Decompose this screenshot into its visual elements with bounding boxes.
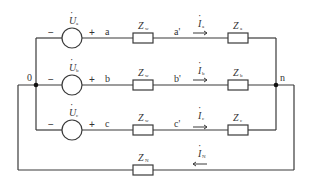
zw-b-sub: w: [145, 73, 149, 78]
circuit-diagram: 0 n − + · U a a − + · U b b − + · U c c …: [0, 0, 312, 189]
terminal-c-prime-label: c': [174, 118, 180, 129]
current-c-sub: c: [202, 116, 205, 121]
source-c-plus: +: [89, 119, 95, 130]
terminal-c-label: c: [105, 118, 110, 129]
wires: [18, 38, 294, 170]
zw-b-symbol: Z: [138, 67, 144, 78]
zb-sub: b: [240, 73, 243, 78]
node-n-dot: [274, 83, 279, 88]
neutral-impedance: Z N: [133, 152, 153, 175]
resistor-icon: [133, 125, 153, 135]
current-a-sub: a: [202, 24, 205, 29]
zn-sub: N: [145, 158, 149, 163]
node-0-label: 0: [27, 72, 32, 83]
zn-symbol: Z: [138, 152, 144, 163]
current-n: · I N: [193, 140, 207, 166]
load-impedance-c: Z c: [228, 112, 248, 135]
current-n-sub: N: [202, 154, 206, 159]
terminal-a-label: a: [105, 26, 110, 37]
zw-a-sub: w: [145, 26, 149, 31]
resistor-icon: [228, 80, 248, 90]
terminal-a-prime-label: a': [174, 26, 180, 37]
voltage-source-b: − + · U b b: [48, 54, 110, 95]
current-a: · I a: [193, 10, 207, 35]
line-impedance-b: Z w: [133, 67, 153, 90]
line-impedance-c: Z w: [133, 112, 153, 135]
current-b-sub: b: [202, 71, 205, 76]
resistor-icon: [133, 165, 153, 175]
current-c: · I c: [193, 102, 207, 129]
terminal-b-label: b: [105, 73, 110, 84]
zb-symbol: Z: [233, 67, 239, 78]
line-impedance-a: Z w: [133, 20, 153, 43]
current-b: · I b: [193, 57, 207, 82]
arrow-right-icon: [193, 31, 207, 35]
zw-c-symbol: Z: [138, 112, 144, 123]
source-a-minus: −: [48, 27, 54, 38]
voltage-source-c: − + · U c c: [48, 99, 110, 140]
source-b-sub: b: [76, 68, 79, 73]
arrow-right-icon: [193, 78, 207, 82]
resistor-icon: [228, 33, 248, 43]
source-a-plus: +: [89, 27, 95, 38]
source-circle-icon: [62, 28, 82, 48]
node-0-dot: [34, 83, 39, 88]
zw-c-sub: w: [145, 118, 149, 123]
zc-sub: c: [240, 118, 243, 123]
arrow-right-icon: [193, 125, 207, 129]
source-circle-icon: [62, 75, 82, 95]
node-n-label: n: [280, 72, 285, 83]
zw-a-symbol: Z: [138, 20, 144, 31]
arrow-left-icon: [193, 162, 207, 166]
zc-symbol: Z: [233, 112, 239, 123]
source-c-minus: −: [48, 119, 54, 130]
resistor-icon: [133, 33, 153, 43]
resistor-icon: [228, 125, 248, 135]
source-a-sub: a: [76, 21, 79, 26]
source-b-minus: −: [48, 74, 54, 85]
load-impedance-b: Z b: [228, 67, 248, 90]
load-impedance-a: Z a: [228, 20, 248, 43]
resistor-icon: [133, 80, 153, 90]
source-c-sub: c: [76, 113, 79, 118]
source-b-plus: +: [89, 74, 95, 85]
source-circle-icon: [62, 120, 82, 140]
terminal-b-prime-label: b': [174, 73, 181, 84]
za-symbol: Z: [233, 20, 239, 31]
voltage-source-a: − + · U a a: [48, 7, 110, 48]
za-sub: a: [240, 26, 243, 31]
